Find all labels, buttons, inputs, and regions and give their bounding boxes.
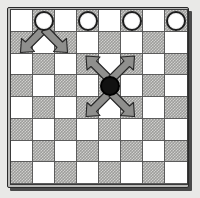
board-square[interactable]	[77, 10, 99, 32]
board-square[interactable]	[77, 75, 99, 97]
board-square[interactable]	[143, 141, 165, 163]
board-square[interactable]	[165, 162, 187, 184]
board-square[interactable]	[33, 119, 55, 141]
board-square[interactable]	[33, 32, 55, 54]
board-square[interactable]	[121, 32, 143, 54]
board-square[interactable]	[11, 32, 33, 54]
board-square[interactable]	[55, 75, 77, 97]
board-square[interactable]	[11, 97, 33, 119]
board-square[interactable]	[11, 141, 33, 163]
board-square[interactable]	[77, 141, 99, 163]
board-square[interactable]	[55, 162, 77, 184]
board-square[interactable]	[11, 162, 33, 184]
board-square[interactable]	[55, 32, 77, 54]
board-square[interactable]	[77, 119, 99, 141]
board-square[interactable]	[11, 10, 33, 32]
board-square[interactable]	[55, 119, 77, 141]
board-square[interactable]	[33, 10, 55, 32]
board-square[interactable]	[33, 97, 55, 119]
checkers-diagram	[0, 0, 200, 198]
board-square[interactable]	[77, 162, 99, 184]
board-square[interactable]	[121, 10, 143, 32]
board-square[interactable]	[143, 162, 165, 184]
board-square[interactable]	[165, 10, 187, 32]
board-square[interactable]	[11, 119, 33, 141]
board-square[interactable]	[77, 97, 99, 119]
board-square[interactable]	[33, 54, 55, 76]
board-square[interactable]	[143, 119, 165, 141]
board-square[interactable]	[33, 162, 55, 184]
board-square[interactable]	[121, 75, 143, 97]
board-square[interactable]	[165, 97, 187, 119]
board-square[interactable]	[55, 141, 77, 163]
board-square[interactable]	[55, 97, 77, 119]
board-square[interactable]	[99, 10, 121, 32]
board-square[interactable]	[165, 54, 187, 76]
board-square[interactable]	[143, 75, 165, 97]
board-square[interactable]	[143, 32, 165, 54]
board-square[interactable]	[143, 54, 165, 76]
board-square[interactable]	[165, 32, 187, 54]
board-grid	[11, 10, 187, 184]
board-square[interactable]	[121, 54, 143, 76]
board-square[interactable]	[99, 162, 121, 184]
board-square[interactable]	[33, 141, 55, 163]
board-square[interactable]	[77, 32, 99, 54]
board-square[interactable]	[143, 97, 165, 119]
board-square[interactable]	[55, 10, 77, 32]
board-square[interactable]	[165, 75, 187, 97]
board-square[interactable]	[11, 75, 33, 97]
board-square[interactable]	[99, 97, 121, 119]
board-square[interactable]	[143, 10, 165, 32]
board-square[interactable]	[99, 141, 121, 163]
board-square[interactable]	[33, 75, 55, 97]
board-square[interactable]	[11, 54, 33, 76]
board-square[interactable]	[99, 75, 121, 97]
board-square[interactable]	[121, 97, 143, 119]
board-square[interactable]	[121, 162, 143, 184]
board-square[interactable]	[165, 119, 187, 141]
board-square[interactable]	[55, 54, 77, 76]
board-square[interactable]	[77, 54, 99, 76]
board-square[interactable]	[99, 119, 121, 141]
board-playing-surface	[10, 9, 188, 185]
board-square[interactable]	[99, 32, 121, 54]
board-square[interactable]	[165, 141, 187, 163]
board-square[interactable]	[99, 54, 121, 76]
board-square[interactable]	[121, 141, 143, 163]
board-square[interactable]	[121, 119, 143, 141]
